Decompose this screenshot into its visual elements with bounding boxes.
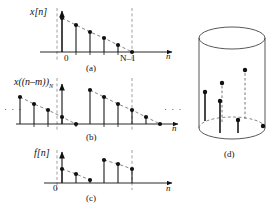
sample-c-1	[74, 172, 78, 176]
end-label-a: N–1	[120, 54, 136, 63]
sample-b-9	[144, 115, 148, 119]
panel-c	[44, 150, 172, 190]
ylabel-panel-b-sub: N	[49, 82, 53, 89]
sample-b-1	[32, 102, 36, 106]
sample-b-6	[102, 95, 106, 99]
xlabel-panel-a: n	[166, 52, 171, 61]
origin-label-c: 0	[53, 184, 58, 193]
sample-c-3	[102, 158, 106, 162]
sample-d-2	[243, 68, 247, 72]
sample-a-0	[60, 16, 64, 20]
envelope-a	[62, 18, 132, 52]
right-ellipsis-b: · · ·	[164, 105, 183, 114]
sample-b-7	[116, 102, 120, 106]
sample-a-3	[102, 36, 106, 40]
sample-d-5	[261, 124, 265, 128]
sample-d-4	[236, 118, 240, 122]
xlabel-panel-b: n	[172, 124, 177, 133]
cylinder-bottom-back	[199, 117, 265, 128]
sample-a-1	[74, 23, 78, 27]
origin-label-a: 0	[64, 54, 69, 63]
sample-b-0	[18, 95, 22, 99]
sample-c-0	[60, 167, 64, 171]
ylabel-panel-b: x((n–m))N	[14, 77, 53, 89]
caption-panel-b: (b)	[86, 133, 97, 142]
sample-b-5	[88, 88, 92, 92]
sample-c-2	[88, 178, 92, 182]
sample-b-2	[46, 108, 50, 112]
circular-shift-figure	[0, 0, 280, 222]
sample-d-0	[203, 90, 207, 94]
left-ellipsis-b: · · ·	[4, 105, 23, 114]
sample-d-1	[220, 81, 224, 85]
panel-a	[40, 8, 172, 60]
envelope-b-2	[90, 90, 160, 124]
sample-a-4	[116, 43, 120, 47]
cylinder-top	[199, 27, 265, 49]
sample-b-8	[130, 108, 134, 112]
ylabel-panel-b-main: x((n–m))	[14, 76, 49, 87]
sample-c-4	[116, 162, 120, 166]
caption-panel-a: (a)	[86, 64, 96, 73]
caption-panel-c: (c)	[86, 194, 96, 203]
xlabel-panel-c: n	[166, 184, 171, 193]
sample-d-3	[218, 99, 222, 103]
sample-c-5	[130, 167, 134, 171]
ylabel-panel-c: f[n]	[34, 148, 50, 158]
sample-b-10	[158, 122, 162, 126]
cylinder-bottom-front	[199, 128, 265, 139]
caption-panel-d: (d)	[224, 150, 235, 159]
sample-b-3	[60, 115, 64, 119]
sample-a-2	[88, 30, 92, 34]
ylabel-panel-a: x[n]	[30, 7, 47, 17]
panel-d	[199, 27, 265, 139]
